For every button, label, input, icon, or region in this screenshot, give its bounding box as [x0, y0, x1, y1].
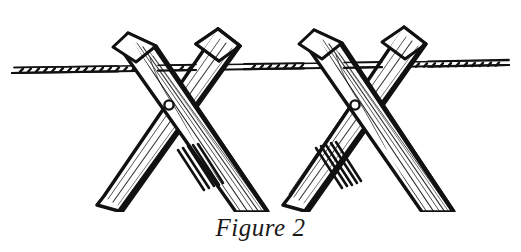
nail-head-icon	[350, 100, 359, 109]
figure-container: Figure 2	[0, 0, 521, 252]
stake-crossing-right	[283, 27, 454, 212]
figure-caption: Figure 2	[0, 214, 521, 242]
stake-crossing-left	[97, 29, 268, 212]
figure-illustration	[0, 0, 521, 212]
stake-and-wire-drawing	[0, 0, 521, 212]
nail-head-icon	[164, 100, 173, 109]
ink-drawing	[12, 27, 509, 212]
